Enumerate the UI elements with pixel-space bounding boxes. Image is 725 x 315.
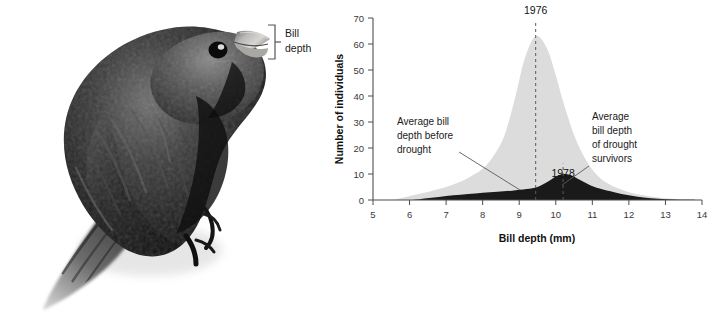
chart-svg: 010203040506070 567891011121314 Number o… — [330, 0, 725, 315]
finch-photo-svg: Bill depth — [0, 0, 330, 315]
bill-depth-distribution-chart: 010203040506070 567891011121314 Number o… — [330, 0, 725, 315]
y-axis-ticks: 010203040506070 — [353, 13, 373, 206]
annotation-before-drought-line1: Average bill — [397, 116, 449, 127]
x-tick-label: 8 — [480, 209, 485, 220]
bill-depth-label-line2: depth — [285, 42, 311, 54]
chart-plot-area — [373, 20, 702, 200]
y-tick-label: 70 — [353, 13, 364, 24]
annotation-survivors-line1: Average — [592, 111, 630, 122]
figure-root: Bill depth 010203040506070 56 — [0, 0, 725, 315]
annotation-before-drought-line2: depth before — [397, 130, 454, 141]
y-tick-label: 20 — [353, 143, 364, 154]
annotation-survivors-line4: survivors — [592, 153, 632, 164]
x-tick-label: 5 — [370, 209, 375, 220]
x-tick-label: 10 — [550, 209, 561, 220]
x-tick-label: 13 — [660, 209, 671, 220]
y-tick-label: 60 — [353, 39, 364, 50]
y-tick-label: 10 — [353, 169, 364, 180]
y-tick-label: 40 — [353, 91, 364, 102]
x-axis-title: Bill depth (mm) — [499, 232, 575, 244]
year-label-1976: 1976 — [524, 4, 548, 16]
annotation-before-drought-line3: drought — [397, 144, 431, 155]
x-tick-label: 11 — [587, 209, 597, 220]
bill-depth-label-line1: Bill — [285, 27, 299, 39]
y-tick-label: 50 — [353, 65, 364, 76]
x-tick-label: 14 — [697, 209, 708, 220]
y-tick-label: 0 — [359, 195, 364, 206]
x-axis-ticks: 567891011121314 — [370, 200, 707, 220]
x-tick-label: 12 — [624, 209, 635, 220]
x-tick-label: 6 — [407, 209, 412, 220]
annotation-survivors-line3: of drought — [592, 139, 637, 150]
y-tick-label: 30 — [353, 117, 364, 128]
x-tick-label: 7 — [443, 209, 448, 220]
annotation-survivors-line2: bill depth — [592, 125, 632, 136]
bill-depth-bracket — [268, 25, 275, 59]
finch-photo-panel: Bill depth — [0, 0, 330, 315]
year-label-1978: 1978 — [551, 167, 575, 179]
bill-depth-annotation: Bill depth — [268, 25, 311, 59]
x-tick-label: 9 — [517, 209, 522, 220]
y-axis-title: Number of individuals — [333, 54, 345, 164]
